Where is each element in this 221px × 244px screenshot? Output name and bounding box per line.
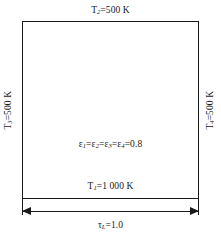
right-surface-temperature-label: T4=500 K xyxy=(205,70,217,150)
dimension-line xyxy=(22,211,199,212)
enclosure-rectangle xyxy=(22,21,199,199)
dimension-arrowhead-right-icon xyxy=(190,207,199,215)
bottom-surface-temperature-label: T1=1 000 K xyxy=(22,181,199,193)
radiation-enclosure-figure: T2=500 K T3=500 K T4=500 K ε1=ε2=ε3=ε4=0… xyxy=(0,0,221,244)
optical-thickness-dimension-label: τL=1.0 xyxy=(22,220,199,232)
left-surface-temperature-label: T3=500 K xyxy=(3,70,15,150)
dimension-arrowhead-left-icon xyxy=(22,207,31,215)
top-surface-temperature-label: T2=500 K xyxy=(0,5,221,17)
emissivity-annotation-label: ε1=ε2=ε3=ε4=0.8 xyxy=(22,139,199,151)
